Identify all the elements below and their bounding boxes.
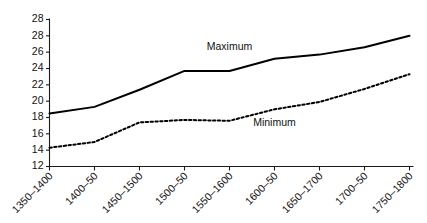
x-axis-tick-label: 1600–50	[243, 169, 281, 207]
y-axis-tick-label: 26	[32, 45, 44, 57]
x-axis-tick-label: 1450–1500	[99, 169, 145, 215]
line-chart: 12141618202224262828 1350–14001400–50145…	[0, 0, 427, 223]
y-axis-group: 12141618202224262828	[32, 12, 50, 171]
y-axis-tick-label: 28	[32, 12, 44, 24]
x-axis-tick-label: 1400–50	[63, 169, 101, 207]
series-line-minimum	[50, 74, 410, 148]
x-axis-tick-label: 1350–1400	[9, 169, 55, 215]
y-axis-tick-label: 22	[32, 78, 44, 90]
y-axis-tick-label: 14	[32, 143, 44, 155]
x-axis-tick-label: 1700–50	[333, 169, 371, 207]
plot-series-group	[50, 36, 410, 148]
x-axis-tick-label: 1650–1700	[279, 169, 325, 215]
y-axis-tick-label: 28	[32, 29, 44, 41]
x-axis-tick-label: 1500–50	[153, 169, 191, 207]
y-axis-tick-label: 16	[32, 127, 44, 139]
x-axis-tick-marks	[50, 167, 410, 171]
y-axis-tick-label: 12	[32, 159, 44, 171]
series-label-maximum: Maximum	[207, 40, 253, 52]
x-axis-group: 1350–14001400–501450–15001500–501550–160…	[9, 167, 415, 216]
x-axis-tick-label: 1750–1800	[369, 169, 415, 215]
y-axis-tick-label: 18	[32, 110, 44, 122]
series-label-minimum: Minimum	[253, 116, 296, 128]
y-axis-tick-label: 24	[32, 61, 44, 73]
chart-container: 12141618202224262828 1350–14001400–50145…	[0, 0, 427, 223]
y-axis-tick-labels: 12141618202224262828	[32, 12, 44, 171]
x-axis-tick-label: 1550–1600	[189, 169, 235, 215]
x-axis-tick-labels: 1350–14001400–501450–15001500–501550–160…	[9, 169, 415, 215]
y-axis-tick-label: 20	[32, 94, 44, 106]
